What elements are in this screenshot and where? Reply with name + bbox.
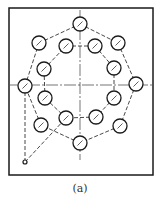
holes — [18, 17, 143, 150]
hole-pattern-diagram — [0, 0, 160, 206]
origin-point — [23, 160, 27, 164]
figure-caption: (a) — [0, 182, 160, 195]
